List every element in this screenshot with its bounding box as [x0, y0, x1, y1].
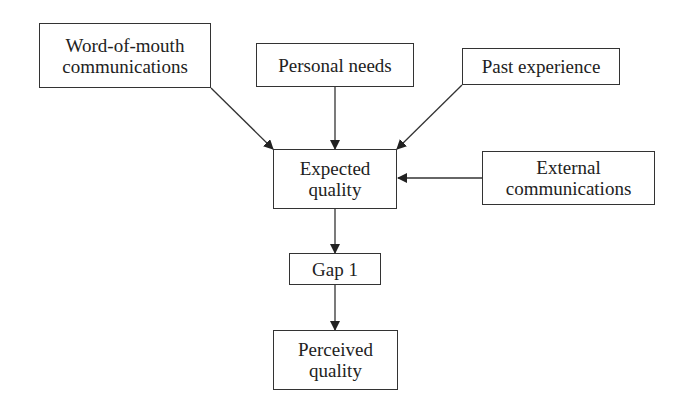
node-gap-1: Gap 1 — [289, 253, 381, 285]
arrow-word-of-mouth-to-expected — [211, 88, 273, 149]
node-expected-quality: Expected quality — [273, 149, 397, 209]
node-word-of-mouth-communications: Word-of-mouth communications — [39, 23, 211, 88]
arrow-past-experience-to-expected — [397, 85, 462, 149]
node-perceived-quality: Perceived quality — [273, 330, 398, 390]
node-past-experience: Past experience — [462, 48, 620, 85]
node-personal-needs: Personal needs — [256, 43, 414, 87]
node-external-communications: External communications — [482, 151, 655, 205]
